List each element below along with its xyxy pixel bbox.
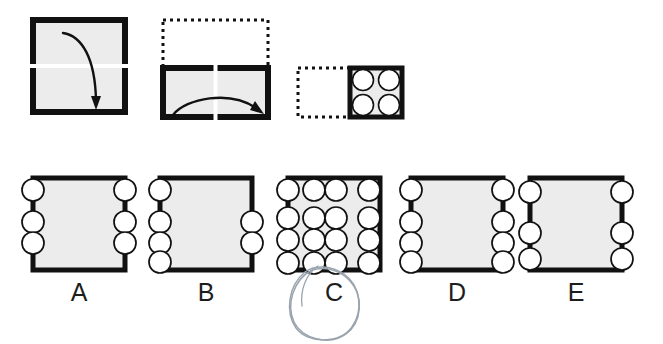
option-c-hole [277, 229, 299, 251]
option-c-hole [325, 179, 347, 201]
fold-step-3-ghost [298, 68, 350, 117]
option-a-hole [114, 179, 136, 201]
fold-step-2 [163, 20, 268, 120]
option-b-paper[interactable] [160, 178, 252, 270]
option-a-hole [22, 179, 44, 201]
option-label-e: E [556, 280, 596, 305]
answer-option-d[interactable] [400, 178, 514, 273]
answer-option-e[interactable] [519, 178, 633, 270]
option-a-hole [114, 232, 136, 254]
puzzle-canvas: A B C D E [0, 0, 663, 344]
option-b-hole [149, 211, 171, 233]
option-c-hole [325, 229, 347, 251]
option-b-hole [241, 211, 263, 233]
option-e-hole [611, 181, 633, 203]
fold-step-3 [298, 68, 402, 117]
punch-hole [353, 95, 374, 116]
option-label-d: D [437, 280, 477, 305]
answer-option-a[interactable] [22, 178, 136, 270]
option-a-hole [22, 211, 44, 233]
option-c-hole [358, 179, 380, 201]
option-b-hole [241, 232, 263, 254]
option-c-hole [277, 207, 299, 229]
option-c-hole [303, 229, 325, 251]
option-e-hole [519, 248, 541, 270]
option-e-hole [519, 222, 541, 244]
option-d-hole [492, 179, 514, 201]
option-e-hole [611, 222, 633, 244]
option-d-paper[interactable] [411, 178, 503, 270]
option-a-hole [114, 211, 136, 233]
option-d-hole [400, 251, 422, 273]
answer-option-c[interactable] [277, 178, 380, 274]
option-c-hole [358, 229, 380, 251]
option-d-hole [400, 211, 422, 233]
option-b-hole [149, 179, 171, 201]
option-a-hole [22, 232, 44, 254]
fold-step-1 [30, 20, 128, 112]
option-b-hole [149, 251, 171, 273]
option-d-hole [492, 211, 514, 233]
option-e-hole [611, 248, 633, 270]
answer-option-b[interactable] [149, 178, 263, 273]
fold-step-2-ghost [163, 20, 268, 68]
option-d-hole [400, 179, 422, 201]
punch-hole [379, 95, 400, 116]
option-c-hole [358, 252, 380, 274]
option-a-paper[interactable] [33, 178, 125, 270]
punch-hole [353, 70, 374, 91]
option-c-hole [325, 207, 347, 229]
option-c-hole [303, 179, 325, 201]
option-e-paper[interactable] [530, 178, 622, 270]
option-c-hole [303, 207, 325, 229]
option-label-a: A [59, 280, 99, 305]
option-label-b: B [186, 280, 226, 305]
option-label-c: C [314, 280, 354, 305]
punch-hole [379, 70, 400, 91]
option-d-hole [492, 251, 514, 273]
option-e-hole [519, 181, 541, 203]
option-c-hole [277, 179, 299, 201]
option-c-hole [358, 207, 380, 229]
option-c-hole [277, 252, 299, 274]
